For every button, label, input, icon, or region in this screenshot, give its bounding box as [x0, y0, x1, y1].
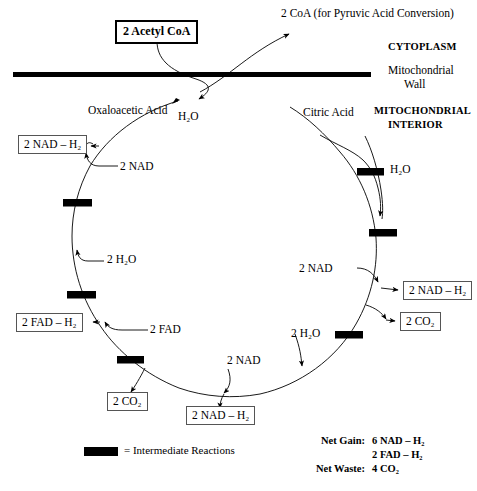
net-waste-value-1: 4 CO₂ [372, 462, 399, 476]
mitochondrial-wall-label-line2: Wall [404, 78, 425, 90]
intermediate-bar-right-lower [369, 229, 397, 237]
nad-input-label-upper-left: 2 NAD [120, 160, 154, 172]
co2-out-arrow-right [366, 305, 386, 319]
coa-exit-arrow [200, 34, 289, 92]
legend-bar-swatch [84, 447, 118, 456]
cycle-arc-right-lower [356, 238, 376, 324]
net-gain-label: Net Gain: [297, 434, 372, 448]
net-gain-value-1: 6 NAD – H₂ [372, 434, 424, 448]
krebs-cycle-diagram: 2 Acetyl CoA 2 CoA (for Pyruvic Acid Con… [0, 0, 477, 491]
cycle-direction-arrow-1 [172, 98, 180, 104]
nadh2-output-box-right: 2 NAD – H₂ [403, 281, 472, 300]
co2-arrow-right-tail [386, 320, 395, 321]
intermediate-bar-left-lower [67, 291, 96, 299]
intermediate-bar-bottom-left [117, 356, 144, 364]
nad-input-label-right: 2 NAD [299, 262, 333, 274]
nad-input-label-bottom: 2 NAD [227, 354, 261, 366]
acetyl-coa-box: 2 Acetyl CoA [115, 20, 198, 44]
net-waste-row: Net Waste: 4 CO₂ [297, 462, 424, 476]
mitochondrial-interior-label-line1: MITOCHONDRIAL [374, 105, 471, 116]
net-gain-spacer [297, 448, 372, 462]
fad-in-arrow [105, 322, 148, 330]
co2-output-box-bottom-left: 2 CO₂ [107, 392, 148, 411]
mitochondrial-wall-label-line1: Mitochondrial [388, 64, 454, 76]
water-input-label-upper-right: H₂O [390, 163, 411, 175]
intermediate-reaction-bars [63, 168, 397, 364]
net-gain-value-2: 2 FAD – H₂ [372, 448, 423, 462]
net-gain-row-2: 2 FAD – H₂ [297, 448, 424, 462]
net-waste-label: Net Waste: [297, 462, 372, 476]
cycle-arc-right-upper [340, 152, 376, 238]
water-in-arrow-left [77, 250, 104, 261]
co2-out-arrow-bottom-left [131, 368, 145, 392]
intermediate-bar-left-upper [63, 199, 92, 207]
fad-input-label-left: 2 FAD [150, 323, 181, 335]
fadh2-output-box-left: 2 FAD – H₂ [16, 313, 83, 332]
oxaloacetic-acid-label: Oxaloacetic Acid [88, 104, 168, 116]
nadh2-output-box-upper-left: 2 NAD – H₂ [18, 135, 87, 154]
co2-output-box-right: 2 CO₂ [400, 312, 441, 331]
net-summary: Net Gain: 6 NAD – H₂ 2 FAD – H₂ Net Wast… [297, 434, 424, 477]
intermediate-bar-bottom-right [335, 331, 363, 339]
water-top-label: H₂O [178, 110, 199, 122]
nadh2-output-box-bottom: 2 NAD – H₂ [186, 406, 255, 425]
coa-output-label: 2 CoA (for Pyruvic Acid Conversion) [281, 7, 454, 19]
nad-in-arrow-bottom [224, 369, 230, 393]
citric-acid-label: Citric Acid [303, 106, 354, 118]
nadh2-out-arrow-right [381, 288, 398, 290]
mitochondrial-interior-label-line2: INTERIOR [388, 119, 443, 130]
water-input-label-bottom-right: 2 H₂O [291, 327, 320, 339]
acetyl-coa-entry-arrow [157, 41, 208, 99]
water-input-label-left: 2 H₂O [107, 253, 136, 265]
cytoplasm-label: CYTOPLASM [388, 41, 457, 52]
water-loop-upper-right [365, 136, 383, 219]
cycle-arc-bottom [179, 388, 260, 397]
net-gain-row-1: Net Gain: 6 NAD – H₂ [297, 434, 424, 448]
legend-label: = Intermediate Reactions [124, 444, 235, 456]
